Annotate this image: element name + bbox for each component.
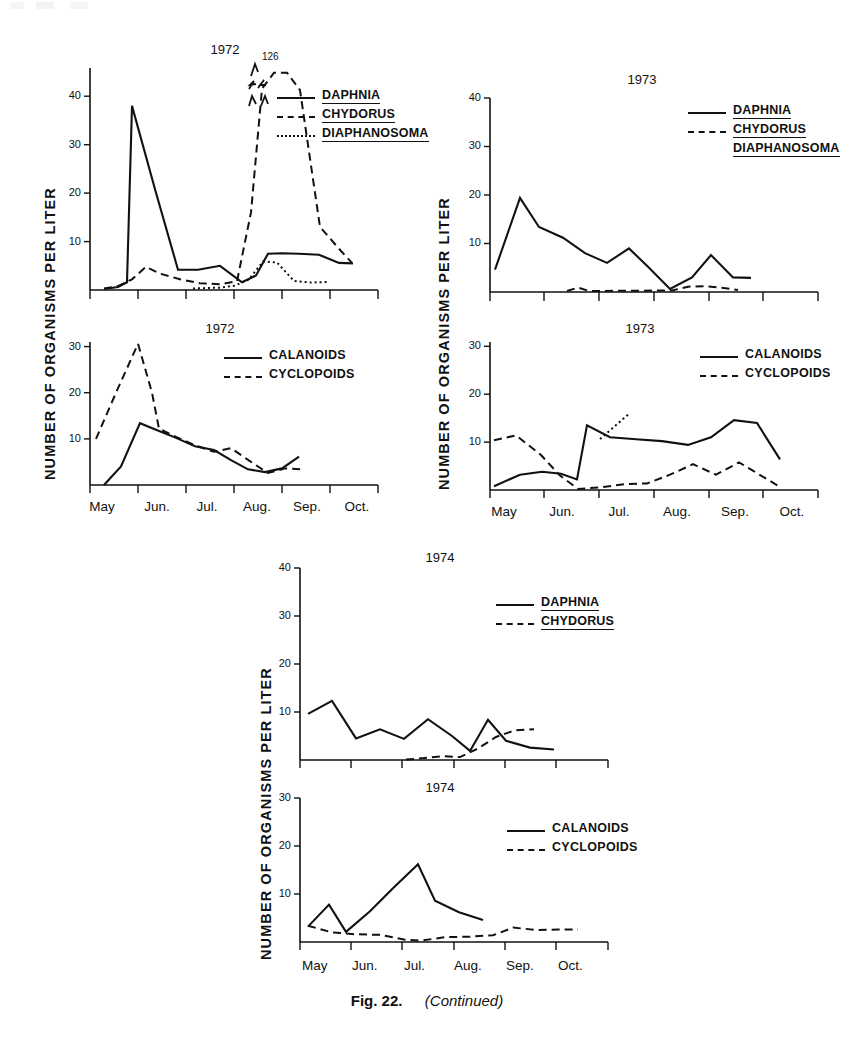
series-cyclopoids [494, 435, 778, 489]
legend-line-dotted-icon [275, 129, 315, 141]
series-chydorus [567, 286, 738, 291]
x-tick-label: Sep. [506, 958, 534, 973]
legend-cladocera-1972: DAPHNIA CHYDORUS DIAPHANOSOMA [275, 87, 429, 144]
legend-cladocera-1974: DAPHNIA CHYDORUS [494, 594, 614, 632]
legend-line-solid-icon [505, 824, 545, 836]
legend-line-dashed-icon [275, 110, 315, 122]
series-calanoids [104, 423, 299, 485]
legend-label: CYCLOPOIDS [552, 841, 638, 855]
legend-line-dashed-icon [222, 370, 262, 382]
y-tick-label: 10 [469, 236, 481, 248]
legend-item: DAPHNIA [494, 594, 614, 613]
legend-label: CYCLOPOIDS [745, 367, 831, 381]
legend-label: CHYDORUS [322, 108, 395, 123]
legend-label: DAPHNIA [322, 89, 380, 104]
x-tick-label: Jul. [196, 499, 217, 514]
legend-item: CHYDORUS [494, 613, 614, 632]
y-tick-label: 30 [69, 340, 81, 352]
x-ticks [490, 490, 818, 498]
chart-cladocera-1974: 40 30 20 10 1974 [260, 550, 660, 770]
x-ticks [90, 290, 378, 299]
legend-item: CYCLOPOIDS [505, 839, 638, 858]
legend-label: CHYDORUS [541, 615, 614, 630]
legend-item: CHYDORUS [275, 106, 429, 125]
x-tick-label: Jun. [549, 504, 575, 519]
y-ticks: 30 20 10 [279, 791, 300, 899]
legend-label: DIAPHANOSOMA [733, 142, 840, 157]
legend-line-dashed-icon [494, 617, 534, 629]
y-tick-label: 20 [279, 657, 291, 669]
legend-line-dashed-icon [686, 125, 726, 137]
x-ticks [300, 760, 608, 768]
y-tick-label: 20 [469, 188, 481, 200]
legend-line-none-icon [686, 144, 726, 156]
legend-cladocera-1973: DAPHNIA CHYDORUS DIAPHANOSOMA [686, 102, 840, 159]
x-tick-labels: May Jun. Jul. Aug. Sep. Oct. [491, 504, 804, 519]
x-tick-labels: May Jun. Jul. Aug. Sep. Oct. [89, 499, 369, 514]
panel-cladocera-1974: 40 30 20 10 1974 DAPHNIA CHYDORUS [260, 550, 660, 770]
y-tick-label: 10 [279, 887, 291, 899]
x-tick-label: May [89, 499, 115, 514]
legend-label: CALANOIDS [269, 349, 346, 363]
y-tick-label: 40 [279, 561, 291, 573]
x-tick-label: May [491, 504, 517, 519]
figure-caption: Fig. 22. (Continued) [0, 992, 854, 1009]
y-tick-label: 30 [469, 339, 481, 351]
y-axis-label-left: NUMBER OF ORGANISMS PER LITER [42, 187, 58, 480]
scan-artifact [10, 2, 130, 9]
chart-cladocera-1972: 40 30 20 10 1972 126 [60, 40, 420, 315]
legend-line-solid-icon [494, 598, 534, 610]
x-tick-label: May [302, 958, 328, 973]
legend-item: CYCLOPOIDS [222, 366, 355, 385]
panel-title: 1973 [628, 72, 657, 87]
series-daphnia [308, 701, 554, 751]
panel-title: 1972 [206, 321, 235, 336]
panel-title: 1973 [626, 321, 655, 336]
legend-copepoda-1973: CALANOIDS CYCLOPOIDS [698, 346, 831, 384]
legend-line-solid-icon [222, 351, 262, 363]
panel-copepoda-1974: 30 20 10 1974 CALANOIDS CYCLOPOIDS [260, 780, 660, 980]
legend-label: CALANOIDS [745, 348, 822, 362]
y-tick-label: 10 [69, 235, 81, 247]
y-ticks: 40 30 20 10 [279, 561, 300, 717]
legend-label: DIAPHANOSOMA [322, 127, 429, 142]
caption-number: Fig. 22. [351, 992, 403, 1009]
chart-copepoda-1974: 30 20 10 1974 [260, 780, 660, 980]
y-tick-label: 30 [279, 791, 291, 803]
panel-cladocera-1973: 40 30 20 10 1973 DAPHNIA CHYDORUS [450, 70, 850, 315]
peak-annotation: 126 [262, 51, 279, 62]
x-ticks [90, 485, 378, 493]
y-tick-label: 20 [69, 186, 81, 198]
x-tick-label: Sep. [721, 504, 749, 519]
legend-line-solid-icon [698, 350, 738, 362]
panel-copepoda-1973: 30 20 10 1973 May Jun. Jul. Aug. Sep. Oc… [450, 320, 850, 520]
y-tick-label: 20 [469, 387, 481, 399]
legend-line-dashed-icon [505, 843, 545, 855]
x-tick-label: Jul. [608, 504, 629, 519]
y-tick-label: 40 [69, 89, 81, 101]
y-tick-label: 20 [279, 839, 291, 851]
x-tick-label: Aug. [454, 958, 482, 973]
y-tick-label: 10 [279, 705, 291, 717]
legend-label: DAPHNIA [541, 596, 599, 611]
legend-copepoda-1972: CALANOIDS CYCLOPOIDS [222, 347, 355, 385]
y-tick-label: 10 [469, 435, 481, 447]
legend-item: DAPHNIA [686, 102, 840, 121]
legend-item: CALANOIDS [698, 346, 831, 365]
series-daphnia [495, 198, 751, 289]
legend-line-solid-icon [686, 106, 726, 118]
legend-line-dashed-icon [698, 369, 738, 381]
legend-item: CHYDORUS [686, 121, 840, 140]
legend-line-solid-icon [275, 91, 315, 103]
series-calanoids [494, 420, 780, 486]
x-tick-label: Oct. [558, 958, 583, 973]
x-tick-label: Oct. [345, 499, 370, 514]
legend-item: CALANOIDS [505, 820, 638, 839]
legend-item: DAPHNIA [275, 87, 429, 106]
legend-item: CYCLOPOIDS [698, 365, 831, 384]
legend-copepoda-1974: CALANOIDS CYCLOPOIDS [505, 820, 638, 858]
x-tick-label: Sep. [293, 499, 321, 514]
y-ticks: 30 20 10 [469, 339, 490, 447]
x-tick-label: Aug. [243, 499, 271, 514]
y-tick-label: 10 [69, 432, 81, 444]
